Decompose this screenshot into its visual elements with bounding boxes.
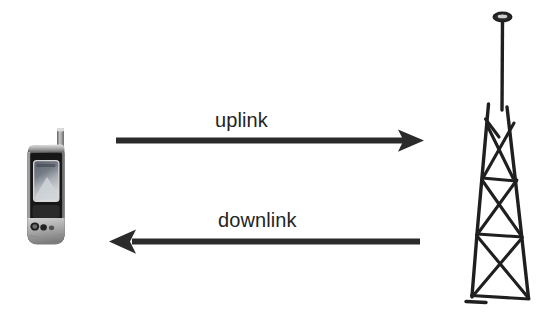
tower-leg-left	[472, 104, 489, 296]
uplink-label: uplink	[215, 110, 268, 130]
mobile-phone	[22, 122, 82, 252]
downlink-label: downlink	[218, 210, 297, 230]
tower-base-foot	[466, 302, 486, 303]
diagram-canvas: uplink downlink	[0, 0, 551, 318]
downlink-arrow-head	[109, 230, 136, 254]
mobile-phone-icon	[22, 122, 82, 252]
cell-tower-icon	[452, 6, 548, 314]
phone-bottom-chin	[28, 218, 65, 245]
tower-leg-right	[507, 107, 529, 298]
tower-mast	[494, 13, 512, 110]
cell-tower	[452, 6, 548, 314]
phone-keypad	[33, 205, 60, 218]
tower-cross-brace-3	[472, 236, 529, 298]
uplink-arrow	[112, 126, 432, 156]
phone-screen	[33, 160, 60, 202]
